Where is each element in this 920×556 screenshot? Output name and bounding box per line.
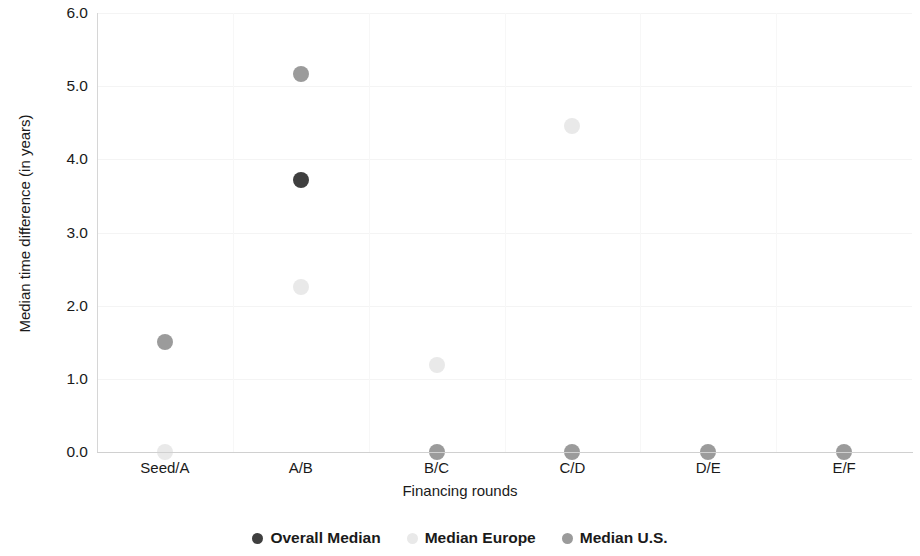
gridline-vertical [776,13,777,452]
x-axis-tick-label: C/D [512,459,632,476]
y-axis-tick-label: 3.0 [28,224,88,242]
legend-item[interactable]: Overall Median [252,529,380,547]
x-axis-tick-label: D/E [648,459,768,476]
data-point[interactable] [157,334,173,350]
data-point[interactable] [429,357,445,373]
gridline-vertical [369,13,370,452]
data-point[interactable] [564,118,580,134]
x-axis-tick-label: A/B [241,459,361,476]
gridline-vertical [505,13,506,452]
y-axis-tick-label: 5.0 [28,77,88,95]
y-axis-tick-label: 1.0 [28,370,88,388]
legend-item[interactable]: Median Europe [407,529,536,547]
legend-item-label: Median U.S. [580,529,668,547]
gridline-vertical [640,13,641,452]
gridline-vertical [233,13,234,452]
data-point[interactable] [293,279,309,295]
y-axis-tick-labels: 0.01.02.03.04.05.06.0 [20,0,88,556]
y-axis-tick-label: 6.0 [28,4,88,22]
y-axis-tick-label: 4.0 [28,150,88,168]
y-axis-tick-label: 2.0 [28,297,88,315]
legend-marker-icon [407,533,418,544]
chart-legend: Overall MedianMedian EuropeMedian U.S. [0,529,920,547]
legend-item[interactable]: Median U.S. [562,529,668,547]
x-axis-tick-label: Seed/A [105,459,225,476]
legend-item-label: Median Europe [425,529,536,547]
legend-marker-icon [252,533,263,544]
x-axis-line [97,452,913,453]
legend-item-label: Overall Median [270,529,380,547]
y-axis-line [97,13,98,453]
legend-marker-icon [562,533,573,544]
plot-area [97,13,912,452]
y-axis-tick-label: 0.0 [28,443,88,461]
x-axis-tick-label: B/C [377,459,497,476]
data-point[interactable] [293,172,309,188]
scatter-chart-figure: Median time difference (in years) 0.01.0… [0,0,920,556]
x-axis-tick-label: E/F [784,459,904,476]
x-axis-title: Financing rounds [0,482,920,499]
data-point[interactable] [293,66,309,82]
